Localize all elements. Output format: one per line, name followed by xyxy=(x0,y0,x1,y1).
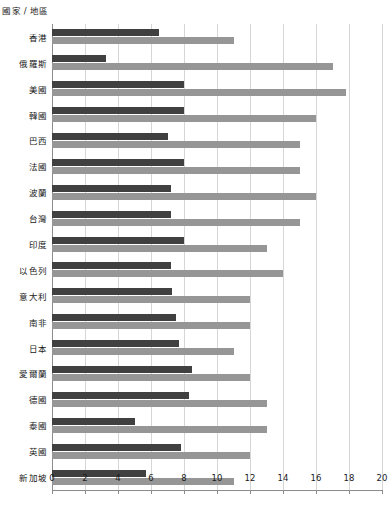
bar-series-a xyxy=(52,185,171,192)
bar-series-a xyxy=(52,237,184,244)
x-axis-tick-label: 10 xyxy=(205,473,229,483)
bar-row: 波蘭 xyxy=(52,179,382,205)
x-axis-tick-label: 20 xyxy=(370,473,392,483)
bar-row: 法國 xyxy=(52,153,382,179)
x-axis-tick xyxy=(85,490,86,494)
bar-series-b xyxy=(52,348,234,355)
x-axis-tick xyxy=(283,490,284,494)
category-label: 英國 xyxy=(0,445,47,457)
x-axis-tick xyxy=(118,490,119,494)
bar-series-a xyxy=(52,159,184,166)
bar-series-b xyxy=(52,426,267,433)
bar-series-b xyxy=(52,193,316,200)
x-axis-tick-label: 16 xyxy=(304,473,328,483)
bar-series-a xyxy=(52,211,171,218)
x-axis-tick xyxy=(217,490,218,494)
category-label: 韓國 xyxy=(0,109,47,121)
bar-series-b xyxy=(52,245,267,252)
category-label: 日本 xyxy=(0,342,47,354)
bar-series-b xyxy=(52,296,250,303)
category-label: 美國 xyxy=(0,83,47,95)
x-axis-tick xyxy=(250,490,251,494)
bar-series-a xyxy=(52,55,106,62)
x-axis-tick xyxy=(349,490,350,494)
bar-series-b xyxy=(52,89,346,96)
bar-series-a xyxy=(52,470,146,477)
bar-series-b xyxy=(52,219,300,226)
bar-row: 英國 xyxy=(52,438,382,464)
gridline xyxy=(382,24,383,490)
bar-row: 韓國 xyxy=(52,102,382,128)
category-label: 法國 xyxy=(0,160,47,172)
x-axis-tick-label: 8 xyxy=(172,473,196,483)
category-axis-header: 國家 / 地區 xyxy=(0,4,48,16)
bar-series-b xyxy=(52,115,316,122)
x-axis-tick xyxy=(316,490,317,494)
x-axis-tick-label: 12 xyxy=(238,473,262,483)
category-label: 泰國 xyxy=(0,419,47,431)
x-axis-tick xyxy=(184,490,185,494)
bar-series-a xyxy=(52,133,168,140)
bar-series-a xyxy=(52,81,184,88)
bar-row: 德國 xyxy=(52,386,382,412)
bar-row: 以色列 xyxy=(52,257,382,283)
bar-row: 日本 xyxy=(52,335,382,361)
x-axis-tick-label: 18 xyxy=(337,473,361,483)
bar-row: 俄羅斯 xyxy=(52,50,382,76)
bar-series-a xyxy=(52,392,189,399)
bar-series-a xyxy=(52,366,192,373)
bar-row: 泰國 xyxy=(52,412,382,438)
category-label: 意大利 xyxy=(0,290,47,302)
bar-series-a xyxy=(52,314,176,321)
x-axis-tick xyxy=(382,490,383,494)
category-label: 德國 xyxy=(0,393,47,405)
category-label: 香港 xyxy=(0,31,47,43)
x-axis-tick xyxy=(52,490,53,494)
category-label: 愛爾蘭 xyxy=(0,367,47,379)
bar-row: 南非 xyxy=(52,309,382,335)
bar-row: 美國 xyxy=(52,76,382,102)
bar-row: 愛爾蘭 xyxy=(52,361,382,387)
category-label: 俄羅斯 xyxy=(0,57,47,69)
bar-series-b xyxy=(52,374,250,381)
x-axis-tick-label: 4 xyxy=(106,473,130,483)
x-axis-tick-label: 6 xyxy=(139,473,163,483)
bar-series-a xyxy=(52,29,159,36)
category-label: 以色列 xyxy=(0,264,47,276)
bar-series-a xyxy=(52,107,184,114)
bar-row: 香港 xyxy=(52,24,382,50)
bar-series-b xyxy=(52,37,234,44)
bar-row: 台灣 xyxy=(52,205,382,231)
plot-area: 香港俄羅斯美國韓國巴西法國波蘭台灣印度以色列意大利南非日本愛爾蘭德國泰國英國新加… xyxy=(52,24,382,490)
bar-series-b xyxy=(52,322,250,329)
x-axis-tick-label: 2 xyxy=(73,473,97,483)
bar-row: 意大利 xyxy=(52,283,382,309)
bar-series-a xyxy=(52,288,172,295)
category-label: 印度 xyxy=(0,238,47,250)
category-label: 台灣 xyxy=(0,212,47,224)
category-label: 南非 xyxy=(0,316,47,328)
bar-series-b xyxy=(52,141,300,148)
bar-row: 巴西 xyxy=(52,128,382,154)
bar-series-b xyxy=(52,63,333,70)
x-axis-tick-label: 0 xyxy=(40,473,64,483)
bar-series-a xyxy=(52,340,179,347)
bar-series-b xyxy=(52,400,267,407)
x-axis-tick-label: 14 xyxy=(271,473,295,483)
bar-series-a xyxy=(52,444,181,451)
bar-series-a xyxy=(52,262,171,269)
category-label: 巴西 xyxy=(0,134,47,146)
bar-series-b xyxy=(52,452,250,459)
bar-row: 印度 xyxy=(52,231,382,257)
x-axis-tick xyxy=(151,490,152,494)
bar-series-b xyxy=(52,167,300,174)
bar-series-b xyxy=(52,270,283,277)
category-label: 波蘭 xyxy=(0,186,47,198)
bar-series-a xyxy=(52,418,135,425)
